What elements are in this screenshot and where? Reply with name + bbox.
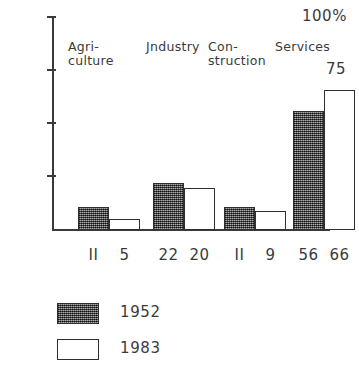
legend-label: 1952 bbox=[120, 305, 161, 320]
bar-1952-0 bbox=[78, 207, 109, 230]
legend-swatch-1952 bbox=[57, 303, 99, 324]
bar-1983-0 bbox=[109, 219, 140, 230]
value-label: 66 bbox=[318, 248, 359, 263]
value-label: 20 bbox=[178, 248, 221, 263]
category-label: Agri- culture bbox=[68, 40, 114, 67]
legend-swatch-1983 bbox=[57, 339, 99, 360]
bar-1983-1 bbox=[184, 188, 215, 230]
bar-1952-3 bbox=[293, 111, 324, 230]
category-label: Con- struction bbox=[208, 40, 266, 67]
bar-1952-1 bbox=[153, 183, 184, 230]
category-label: Jndustry bbox=[146, 40, 200, 54]
bar-1983-2 bbox=[255, 211, 286, 230]
value-label: 9 bbox=[249, 248, 292, 263]
legend-label: 1983 bbox=[120, 341, 161, 356]
bar-1952-2 bbox=[224, 207, 255, 230]
value-label: 5 bbox=[103, 248, 146, 263]
category-label: Services bbox=[275, 40, 330, 54]
bar-1983-3 bbox=[324, 90, 355, 230]
